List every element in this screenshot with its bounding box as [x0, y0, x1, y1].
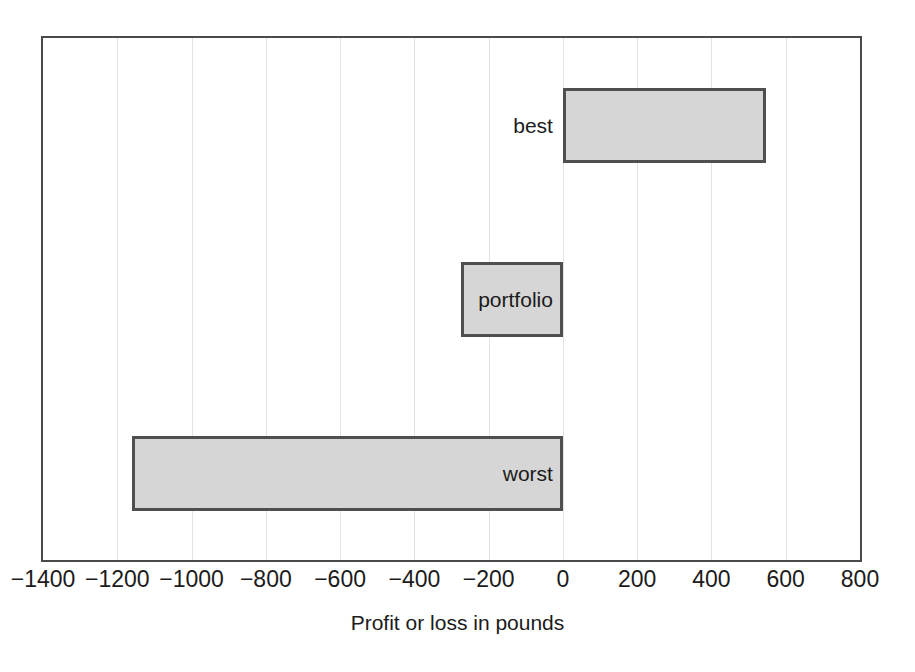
gridline: [117, 38, 118, 560]
x-tick-label: 600: [767, 568, 805, 591]
x-tick-label: −200: [463, 568, 515, 591]
bar-best[interactable]: [563, 88, 766, 163]
x-axis-tick-labels: −1400−1200−1000−800−600−400−200020040060…: [0, 568, 915, 598]
bar-label-portfolio: portfolio: [478, 289, 563, 310]
x-tick-label: −1200: [85, 568, 150, 591]
x-tick-label: −1000: [159, 568, 224, 591]
x-tick-label: 400: [692, 568, 730, 591]
plot-area: bestportfolioworst: [41, 36, 862, 562]
bar-label-best: best: [513, 115, 563, 136]
chart-container: bestportfolioworst −1400−1200−1000−800−6…: [0, 0, 915, 672]
x-tick-label: −800: [240, 568, 292, 591]
x-tick-label: 200: [618, 568, 656, 591]
x-tick-label: 800: [841, 568, 879, 591]
bar-worst[interactable]: [132, 436, 563, 511]
x-tick-label: −600: [314, 568, 366, 591]
x-tick-label: −400: [388, 568, 440, 591]
x-axis-title: Profit or loss in pounds: [0, 612, 915, 633]
x-tick-label: 0: [557, 568, 570, 591]
gridline: [786, 38, 787, 560]
x-tick-label: −1400: [11, 568, 76, 591]
bar-label-worst: worst: [503, 463, 563, 484]
